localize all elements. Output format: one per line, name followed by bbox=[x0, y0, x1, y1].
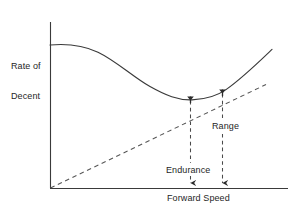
rate-of-descent-curve bbox=[50, 45, 272, 100]
plot-canvas bbox=[0, 0, 293, 208]
range-annotation-label: Range bbox=[212, 121, 239, 131]
y-axis-label: Rate of Decent bbox=[11, 41, 41, 121]
tangent-line bbox=[51, 85, 267, 189]
x-axis-label: Forward Speed bbox=[167, 193, 230, 203]
rate-of-descent-diagram: Rate of Decent Forward Speed Endurance R… bbox=[0, 0, 293, 208]
endurance-annotation-label: Endurance bbox=[166, 165, 210, 175]
y-axis-label-line2: Decent bbox=[11, 91, 41, 101]
y-axis-label-line1: Rate of bbox=[11, 61, 41, 71]
